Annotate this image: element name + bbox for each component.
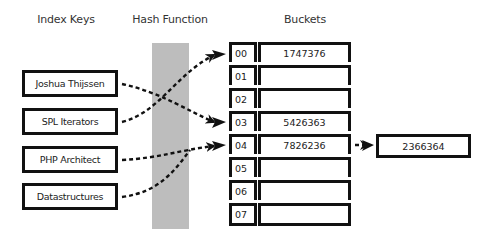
arrow-php-to-04 <box>122 146 214 160</box>
arrow-data-to-04 <box>122 150 190 197</box>
hash-mapping-arrows <box>0 0 486 241</box>
